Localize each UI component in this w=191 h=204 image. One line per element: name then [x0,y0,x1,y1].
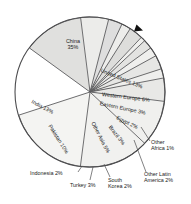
slice-label-turkey: Turkey 3% [70,182,96,188]
leader-line-turkey [90,167,93,180]
slice-label-other-latin-america-l2: America 2% [144,177,190,183]
slice-label-other-latin-america: Other Latin America 2% [144,171,190,183]
slice-label-south-korea: South Korea 2% [108,177,146,189]
slice-label-indonesia: Indonesia 2% [30,170,63,176]
slice-label-china: China 35% [56,38,90,50]
pie-chart-figure: China 35% United States 13% Western Euro… [0,0,191,204]
leader-line-indonesia [78,166,82,172]
start-marker-icon [134,25,143,32]
slice-label-other-africa: Other Africa 1% [151,139,189,151]
slice-label-south-korea-l2: Korea 2% [108,183,146,189]
slice-label-china-value: 35% [56,44,90,50]
slice-label-other-africa-l2: Africa 1% [151,145,189,151]
leader-line-south-korea [104,164,110,177]
